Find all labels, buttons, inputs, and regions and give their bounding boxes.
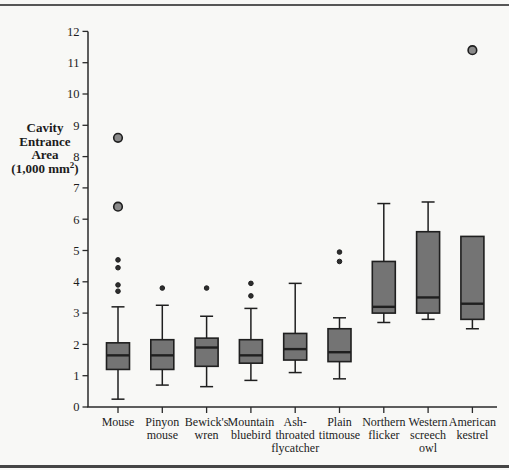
category-label: Ash-throatedflycatcher — [271, 415, 319, 455]
boxplot-chart: 0123456789101112MousePinyonmouseBewick's… — [0, 0, 509, 470]
y-tick-label: 3 — [73, 306, 79, 320]
small-outlier-point — [337, 250, 342, 255]
category-label: Mouse — [102, 415, 135, 429]
y-tick-label: 2 — [73, 338, 79, 352]
box-group-american-kestrel: Americankestrel — [449, 46, 496, 442]
y-tick-label: 8 — [73, 150, 79, 164]
box-group-mouse: Mouse — [102, 134, 135, 429]
large-outlier-point — [114, 202, 123, 211]
category-label: Americankestrel — [449, 415, 496, 442]
box-group-northern-flicker: Northernflicker — [362, 204, 405, 442]
small-outlier-point — [116, 258, 121, 263]
figure-container: Cavity Entrance Area (1,000 mm2) 0123456… — [0, 0, 509, 470]
large-outlier-point — [114, 134, 123, 143]
box-group-western-screech-owl: Westernscreechowl — [409, 202, 448, 455]
y-tick-label: 11 — [67, 56, 79, 70]
category-label: Westernscreechowl — [409, 415, 448, 455]
y-tick-label: 6 — [73, 213, 79, 227]
category-label: Mountainbluebird — [228, 415, 275, 442]
box-group-pinyon-mouse: Pinyonmouse — [145, 286, 179, 442]
iqr-box — [372, 261, 395, 313]
small-outlier-point — [204, 286, 209, 291]
category-label: Northernflicker — [362, 415, 405, 442]
y-tick-label: 9 — [73, 119, 79, 133]
y-tick-label: 0 — [73, 400, 79, 414]
small-outlier-point — [249, 281, 254, 286]
box-group-bewick-s-wren: Bewick'swren — [185, 286, 229, 442]
box-group-plain-titmouse: Plaintitmouse — [319, 250, 360, 442]
category-label: Plaintitmouse — [319, 415, 360, 442]
small-outlier-point — [116, 283, 121, 288]
y-tick-label: 1 — [73, 369, 79, 383]
small-outlier-point — [116, 265, 121, 270]
iqr-box — [239, 340, 262, 363]
y-tick-label: 7 — [73, 181, 79, 195]
iqr-box — [461, 236, 484, 319]
iqr-box — [328, 329, 351, 362]
y-tick-label: 10 — [67, 87, 80, 101]
box-group-mountain-bluebird: Mountainbluebird — [228, 281, 275, 442]
iqr-box — [195, 338, 218, 366]
small-outlier-point — [249, 294, 254, 299]
y-tick-label: 5 — [73, 244, 79, 258]
y-tick-label: 12 — [67, 25, 80, 39]
y-tick-label: 4 — [73, 275, 80, 289]
iqr-box — [417, 232, 440, 313]
box-group-ash-throated-flycatcher: Ash-throatedflycatcher — [271, 283, 319, 455]
small-outlier-point — [160, 286, 165, 291]
small-outlier-point — [116, 289, 121, 294]
category-label: Bewick'swren — [185, 415, 229, 442]
small-outlier-point — [337, 259, 342, 264]
iqr-box — [284, 333, 307, 360]
large-outlier-point — [468, 46, 477, 55]
category-label: Pinyonmouse — [145, 415, 179, 442]
